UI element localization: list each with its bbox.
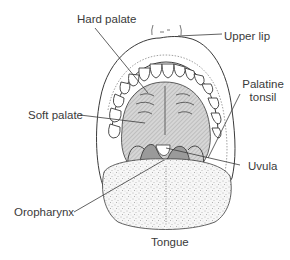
label-upper-lip: Upper lip [224,30,270,43]
label-tongue: Tongue [151,236,189,249]
leader-upper-lip [178,34,222,36]
tongue [103,159,232,230]
label-oropharynx: Oropharynx [14,206,74,219]
label-palatine-tonsil-line2: tonsil [238,91,288,104]
label-hard-palate: Hard palate [77,13,136,26]
philtrum-strokes [152,25,182,35]
label-palatine-tonsil-line1: Palatine [238,78,288,91]
label-palatine-tonsil: Palatine tonsil [238,78,288,104]
label-uvula: Uvula [248,160,277,173]
label-soft-palate: Soft palate [28,109,83,122]
